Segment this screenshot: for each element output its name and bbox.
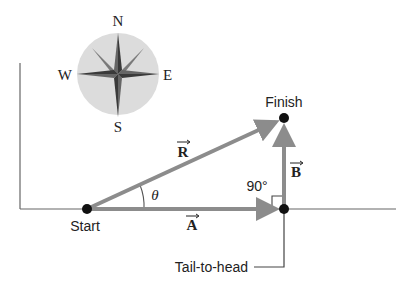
start-point-dot (82, 204, 92, 214)
tail-to-head-label: Tail-to-head (175, 259, 248, 275)
compass-east-label: E (163, 67, 172, 83)
vector-b-label: B (290, 161, 303, 180)
vector-r-text: R (178, 144, 189, 160)
finish-point-dot (279, 113, 289, 123)
theta-arc (140, 185, 144, 209)
right-angle-label: 90° (246, 178, 267, 194)
corner-point-dot (279, 204, 289, 214)
tail-to-head-leader-line (254, 209, 284, 267)
vector-b-text: B (291, 164, 301, 180)
finish-label: Finish (265, 94, 302, 110)
start-label: Start (70, 218, 100, 234)
vector-r-arrow (87, 122, 276, 209)
vector-a-label: A (186, 214, 199, 233)
vector-r-label: R (177, 140, 190, 160)
compass-north-label: N (113, 13, 124, 29)
vector-a-text: A (187, 217, 198, 233)
theta-label: θ (151, 187, 159, 203)
compass-west-label: W (58, 67, 73, 83)
vector-diagram: N S E W Start Finish R A B θ 90° Tail-to… (0, 0, 407, 291)
axes-frame (20, 63, 396, 209)
compass-rose-icon (77, 33, 159, 117)
compass-south-label: S (114, 119, 122, 135)
